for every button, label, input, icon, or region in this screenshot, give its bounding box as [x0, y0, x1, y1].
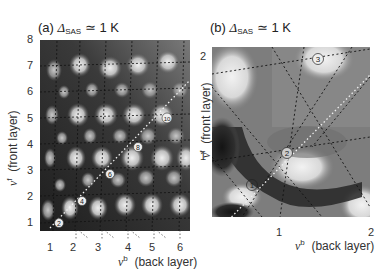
panel-a-delta-value: ≃ 1 K [81, 20, 119, 35]
panel-a-delta-subscript: SAS [65, 27, 81, 36]
panel-b-yaxis-symbol: ν [199, 153, 213, 158]
panel-a-ytick-8: 8 [27, 33, 33, 45]
panel-a-ytick-4: 4 [27, 138, 33, 150]
panel-a-xaxis-sup: b [123, 254, 127, 263]
panel-a-yaxis-label: νf (front layer) [5, 110, 21, 186]
panel-a-xtick-leaders [40, 230, 190, 242]
panel-a-yaxis-sup: f [5, 178, 14, 180]
panel-a-image [40, 40, 190, 231]
panel-a-xtick-2: 2 [70, 241, 76, 253]
panel-a-ytick-3: 3 [27, 164, 33, 176]
svg-text:2: 2 [285, 149, 290, 158]
marker-b-2-icon: 2 [282, 148, 293, 159]
svg-text:1: 1 [250, 181, 255, 190]
panel-a-ytick-7: 7 [27, 59, 33, 71]
panel-b-ytick-2: 2 [200, 50, 206, 62]
marker-b-3-icon: 3 [313, 54, 324, 65]
panel-a-ytick-2: 2 [27, 190, 33, 202]
panel-b-letter: (b) [210, 20, 230, 35]
panel-b-delta-subscript: SAS [237, 27, 253, 36]
panel-a-title: (a) ΔSAS ≃ 1 K [38, 20, 119, 36]
svg-text:3: 3 [316, 55, 321, 64]
panel-b-yaxis-sup: f [198, 150, 207, 152]
panel-b-xaxis-text: (back layer) [311, 239, 374, 253]
panel-a-xtick-6: 6 [177, 241, 183, 253]
panel-a-ytick-6: 6 [27, 85, 33, 97]
panel-b-xtick-1: 1 [276, 226, 282, 238]
panel-a-yaxis-text: (front layer) [6, 110, 20, 171]
panel-b-yaxis-text: (front layer) [199, 82, 213, 143]
panel-a-xaxis-label: νb (back layer) [118, 254, 197, 270]
panel-a-ytick-1: 1 [27, 216, 33, 228]
panel-b-image: 1 2 3 [212, 47, 370, 217]
panel-a-letter: (a) [38, 20, 58, 35]
panel-b-title: (b) ΔSAS ≃ 1 K [210, 20, 291, 36]
panel-a-yaxis-symbol: ν [6, 181, 20, 186]
panel-a-xtick-5: 5 [149, 241, 155, 253]
panel-a-xtick-3: 3 [95, 241, 101, 253]
panel-b-xaxis-sup: b [300, 238, 304, 247]
panel-b-delta-value: ≃ 1 K [253, 20, 291, 35]
panel-b-xtick-2: 2 [368, 226, 374, 238]
panel-a-ytick-5: 5 [27, 112, 33, 124]
panel-a-xtick-4: 4 [125, 241, 131, 253]
panel-b-yaxis-label: νf (front layer) [198, 82, 214, 158]
panel-a-xtick-1: 1 [47, 241, 53, 253]
panel-b-delta-symbol: Δ [230, 20, 238, 35]
panel-a-xaxis-text: (back layer) [134, 255, 197, 269]
panel-a-delta-symbol: Δ [58, 20, 66, 35]
panel-b-xaxis-label: νb (back layer) [295, 238, 374, 254]
